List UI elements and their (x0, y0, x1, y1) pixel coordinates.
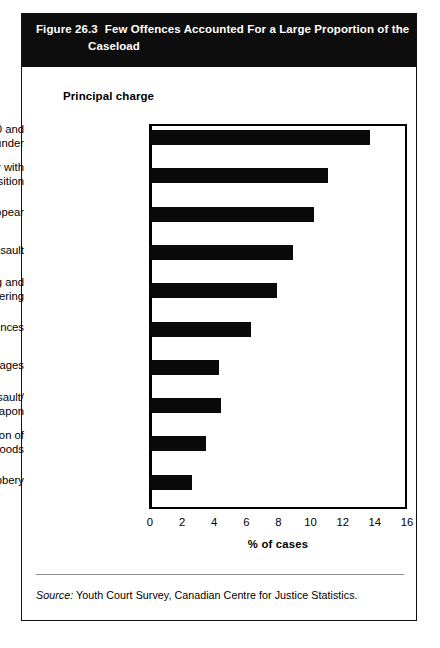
bar (150, 475, 192, 490)
source-text: Youth Court Survey, Canadian Centre for … (76, 589, 358, 601)
figure-title-band: Figure 26.3Few Offences Accounted For a … (22, 14, 416, 67)
figure-number: Figure 26.3 (36, 23, 98, 35)
x-tick-label: 16 (392, 516, 422, 528)
bar-row (150, 283, 277, 298)
figure-title-text-1: Few Offences Accounted For a Large Propo… (105, 23, 409, 35)
figure-title-line-1: Figure 26.3Few Offences Accounted For a … (36, 21, 400, 38)
source-divider (36, 574, 404, 575)
x-tick-label: 0 (135, 516, 165, 528)
category-label: Breaking and entering (0, 276, 24, 303)
category-label: Mischief/damages (0, 359, 24, 373)
bar (150, 130, 370, 145)
bar-row (150, 475, 192, 490)
bar (150, 168, 328, 183)
category-label: Aggrav. assault/ weapon (0, 391, 24, 418)
bar-row (150, 398, 221, 413)
category-label: Possession of stolen goods (0, 429, 24, 456)
bar-row (150, 436, 206, 451)
bar (150, 436, 206, 451)
bar (150, 207, 314, 222)
chart-region: Principal charge % of cases Theft $5,000… (22, 67, 416, 569)
x-tick-label: 6 (231, 516, 261, 528)
x-tick-label: 10 (296, 516, 326, 528)
x-tick-label: 4 (199, 516, 229, 528)
bar (150, 398, 221, 413)
bar (150, 245, 293, 260)
bar (150, 322, 251, 337)
category-label: Theft $5,000 and under (0, 123, 24, 150)
category-label: Minor assault (0, 244, 24, 258)
x-axis-title: % of cases (149, 538, 407, 550)
source-note: Source: Youth Court Survey, Canadian Cen… (36, 589, 358, 601)
bar-row (150, 360, 219, 375)
category-label: Failure to comply with a disposition (0, 161, 24, 188)
x-tick-label: 12 (328, 516, 358, 528)
bar-row (150, 130, 370, 145)
bar-row (150, 322, 251, 337)
bar (150, 360, 219, 375)
y-axis-caption: Principal charge (63, 90, 154, 102)
category-label: Robbery (0, 474, 24, 488)
category-label: Drug-related offences (0, 321, 24, 335)
category-label: Failure to appear (0, 206, 24, 220)
x-tick-label: 14 (360, 516, 390, 528)
figure-title-line-2: Caseload (36, 38, 400, 55)
bar-row (150, 168, 328, 183)
figure-frame: Figure 26.3Few Offences Accounted For a … (21, 13, 417, 621)
bar-row (150, 207, 314, 222)
x-tick-label: 8 (264, 516, 294, 528)
bar (150, 283, 277, 298)
x-tick-label: 2 (167, 516, 197, 528)
source-label: Source: (36, 589, 73, 601)
bar-row (150, 245, 293, 260)
bars-layer (150, 124, 408, 509)
